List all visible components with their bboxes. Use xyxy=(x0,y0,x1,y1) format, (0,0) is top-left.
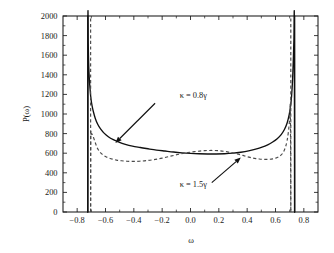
x-axis-title: ω xyxy=(188,235,194,245)
x-tick-label: −0.6 xyxy=(98,216,113,225)
annotation-arrow-line-1 xyxy=(120,103,155,138)
y-tick-label: 400 xyxy=(45,169,58,178)
y-tick-label: 200 xyxy=(45,188,58,197)
annotations-group: κ = 0.8γκ = 1.5γ xyxy=(115,91,240,189)
x-tick-label: 0.4 xyxy=(242,216,253,225)
x-tick-label: 0.6 xyxy=(270,216,280,225)
plot-svg: −0.8−0.6−0.4−0.20.00.20.40.60.8 02004006… xyxy=(0,0,334,253)
y-tick-label: 1800 xyxy=(41,32,58,41)
x-tick-label: 0.2 xyxy=(214,216,224,225)
x-axis-tick-labels: −0.8−0.6−0.4−0.20.00.20.40.60.8 xyxy=(70,216,310,225)
y-tick-label: 2000 xyxy=(41,12,58,21)
y-tick-label: 1400 xyxy=(41,71,58,80)
y-tick-label: 0 xyxy=(53,208,57,217)
y-tick-label: 1600 xyxy=(41,51,58,60)
y-axis-title: P(ω) xyxy=(21,106,31,122)
x-tick-label: −0.4 xyxy=(126,216,142,225)
y-tick-label: 800 xyxy=(45,130,58,139)
series-line-2 xyxy=(91,104,291,212)
x-tick-label: −0.8 xyxy=(70,216,85,225)
x-tick-label: 0.8 xyxy=(299,216,309,225)
x-tick-label: 0.0 xyxy=(185,216,195,225)
annotation-label-1: κ = 0.8γ xyxy=(180,91,208,100)
annotation-arrow-line-2 xyxy=(212,162,236,183)
x-tick-label: −0.2 xyxy=(155,216,170,225)
y-tick-label: 1200 xyxy=(41,90,58,99)
annotation-label-2: κ = 1.5γ xyxy=(180,180,208,189)
y-tick-label: 600 xyxy=(45,149,58,158)
figure-container: −0.8−0.6−0.4−0.20.00.20.40.60.8 02004006… xyxy=(0,0,334,253)
y-tick-label: 1000 xyxy=(41,110,58,119)
y-axis-tick-labels: 0200400600800100012001400160018002000 xyxy=(41,12,58,217)
